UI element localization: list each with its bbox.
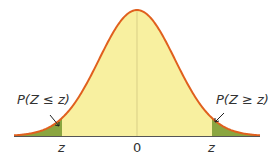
zero-tick: 0 — [133, 140, 141, 155]
left-z-tick: z — [58, 140, 65, 155]
right-z-tick: z — [208, 140, 215, 155]
left-tail-region — [0, 0, 62, 137]
right-tail-label: P(Z ≥ z) — [216, 92, 269, 107]
normal-curve-plot — [0, 0, 276, 158]
right-arrow — [215, 113, 224, 122]
right-tail-region — [212, 0, 276, 137]
left-tail-label: P(Z ≤ z) — [17, 92, 70, 107]
